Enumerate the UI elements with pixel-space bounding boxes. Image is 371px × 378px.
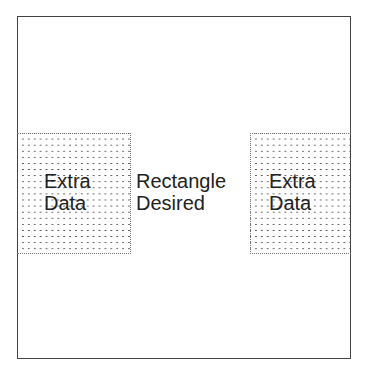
label-line: Extra: [44, 170, 91, 192]
label-line: Extra: [269, 170, 316, 192]
label-line: Desired: [136, 192, 226, 214]
label-line: Rectangle: [136, 170, 226, 192]
rectangle-desired-label: Rectangle Desired: [136, 170, 226, 214]
label-line: Data: [269, 192, 316, 214]
extra-data-right-label: Extra Data: [269, 170, 316, 214]
extra-data-left-label: Extra Data: [44, 170, 91, 214]
label-line: Data: [44, 192, 91, 214]
